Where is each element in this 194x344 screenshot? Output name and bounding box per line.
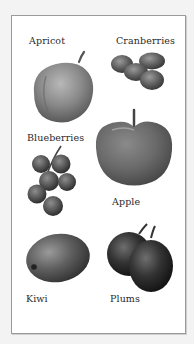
label-cranberries: Cranberries: [116, 35, 175, 46]
kiwi-image: [23, 230, 93, 286]
label-blueberries: Blueberries: [27, 132, 84, 143]
label-apricot: Apricot: [29, 35, 65, 46]
plums-image: [103, 222, 179, 294]
label-apple: Apple: [112, 196, 140, 207]
fruit-illustration-panel: Apricot Cranberries: [11, 15, 186, 334]
cranberries-image: [108, 50, 168, 94]
apple-image: [90, 108, 176, 188]
label-kiwi: Kiwi: [26, 293, 48, 304]
label-plums: Plums: [110, 293, 140, 304]
blueberries-image: [25, 144, 81, 218]
